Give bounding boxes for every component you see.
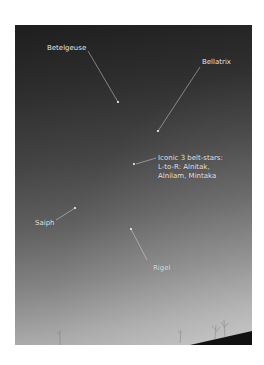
betelgeuse-pointer-line: [88, 51, 118, 102]
bellatrix-pointer-line: [158, 67, 200, 131]
betelgeuse-label: Betelgeuse: [47, 44, 86, 53]
rigel-star: [130, 228, 132, 230]
belt-stars-label-line-2: L-to-R: Alnitak,: [158, 163, 238, 172]
belt-stars-label-line-1: Iconic 3 belt-stars:: [158, 154, 238, 163]
belt-stars-label-line-3: Alnilam, Mintaka: [158, 172, 238, 181]
saiph-pointer-line: [56, 208, 75, 220]
rigel-label: Rigel: [153, 264, 171, 273]
tree-silhouettes: [57, 320, 228, 345]
rigel-pointer-line: [131, 229, 147, 260]
annotation-overlay: [0, 0, 264, 365]
roof-silhouette: [190, 331, 252, 345]
bellatrix-label: Bellatrix: [202, 58, 231, 67]
betelgeuse-star: [117, 101, 119, 103]
saiph-star: [74, 207, 76, 209]
belt-stars-label: Iconic 3 belt-stars: L-to-R: Alnitak, Al…: [158, 154, 238, 181]
saiph-label: Saiph: [35, 219, 55, 228]
bellatrix-star: [157, 130, 159, 132]
belt-stars: [133, 163, 135, 165]
belt-stars-pointer-line: [136, 158, 156, 164]
